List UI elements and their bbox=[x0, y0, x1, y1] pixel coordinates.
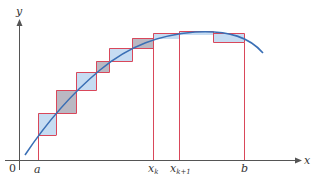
rect-8-border bbox=[180, 32, 245, 161]
tick-label-b: b bbox=[241, 162, 248, 175]
tick-label-xk: xk bbox=[148, 162, 158, 176]
y-axis-arrow-icon bbox=[17, 19, 23, 26]
x-axis-arrow-icon bbox=[295, 158, 302, 164]
rect-3 bbox=[76, 72, 96, 90]
origin-label: 0 bbox=[9, 162, 16, 175]
rectangle-fills bbox=[38, 31, 244, 135]
y-axis-label: y bbox=[15, 5, 23, 18]
rect-4-gray bbox=[96, 61, 109, 72]
riemann-sum-diagram: y x 0 a xk xk+1 b bbox=[0, 0, 312, 194]
tick-label-xk1: xk+1 bbox=[170, 162, 191, 176]
x-axis-label: x bbox=[304, 154, 311, 167]
tick-label-a: a bbox=[34, 163, 41, 176]
rect-7-border bbox=[154, 34, 180, 161]
